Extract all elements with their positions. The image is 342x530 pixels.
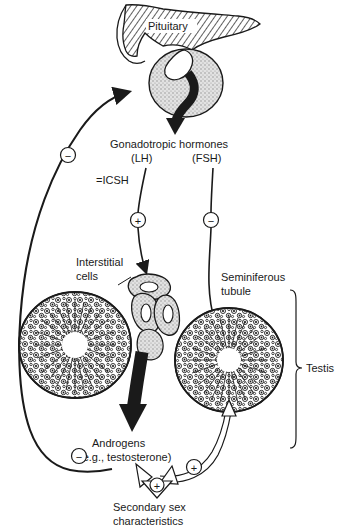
androgen-feedback-left-sign-text: − [76, 451, 82, 463]
androgen-negative-feedback-sign-badge: − [61, 148, 76, 163]
androgen-feedback-right-sign-text: + [191, 462, 197, 474]
secondary-sex-sign-text: + [154, 480, 160, 492]
androgen-feedback-left-sign-badge: − [72, 449, 87, 464]
interstitial-cells-label-line2: cells [76, 270, 99, 282]
pituitary-label: Pituitary [148, 20, 188, 32]
androgens-label: Androgens [92, 437, 146, 449]
fsh-sign-badge: − [204, 213, 219, 228]
secondary-sex-label-line1: Secondary sex [113, 501, 186, 513]
androgens-example-label: (e.g., testosterone) [79, 451, 171, 463]
testis-label: Testis [306, 362, 335, 374]
androgen-negative-feedback-sign-text: − [65, 150, 71, 162]
seminiferous-tubule-label-line1: Seminiferous [221, 271, 286, 283]
interstitial-cells-label-line1: Interstitial [76, 256, 123, 268]
androgen-feedback-right-sign-badge: + [187, 460, 202, 475]
left-seminiferous-tubule [19, 292, 131, 398]
gonadotropic-hormones-label: Gonadotropic hormones [110, 138, 229, 150]
fsh-sign-text: − [208, 215, 214, 227]
fsh-label: (FSH) [192, 152, 221, 164]
lh-label: (LH) [131, 152, 152, 164]
icsh-label: =ICSH [96, 174, 129, 186]
pituitary-label-group: Pituitary [146, 19, 197, 33]
lh-sign-badge: + [131, 213, 146, 228]
diagram-canvas: Pituitary Gonadotropic hormones (LH) (FS… [0, 0, 342, 530]
secondary-sex-label-line2: characteristics [113, 515, 184, 527]
seminiferous-tubule-label-line2: tubule [221, 285, 251, 297]
secondary-sex-sign-badge: + [150, 478, 164, 492]
testis-hormone-diagram: Pituitary Gonadotropic hormones (LH) (FS… [0, 0, 342, 530]
right-seminiferous-tubule [175, 308, 283, 412]
lh-sign-text: + [135, 215, 141, 227]
